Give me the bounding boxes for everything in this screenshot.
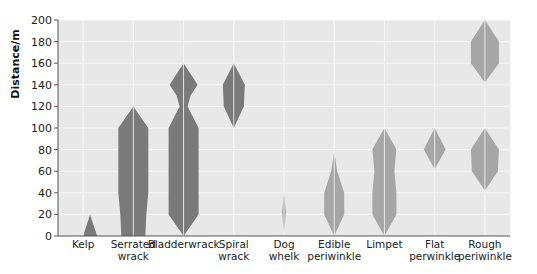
y-tick-label: 160 bbox=[31, 57, 52, 70]
kite-chart: 020406080100120140160180200 KelpSerrated… bbox=[0, 0, 537, 274]
y-tick-label: 120 bbox=[31, 100, 52, 113]
y-axis-ticks: 020406080100120140160180200 bbox=[31, 14, 58, 243]
category-label: Bladderwrack bbox=[148, 238, 221, 250]
category-label: Spiral bbox=[219, 238, 249, 250]
x-axis-labels: KelpSerratedwrackBladderwrackSpiralwrack… bbox=[72, 238, 512, 262]
category-label: Flat bbox=[425, 238, 445, 250]
y-tick-label: 180 bbox=[31, 36, 52, 49]
y-tick-label: 60 bbox=[38, 165, 52, 178]
y-tick-label: 40 bbox=[38, 187, 52, 200]
category-label: wrack bbox=[218, 250, 250, 262]
y-tick-label: 140 bbox=[31, 79, 52, 92]
category-label: Rough bbox=[468, 238, 501, 250]
y-tick-label: 100 bbox=[31, 122, 52, 135]
category-label: Dog bbox=[273, 238, 294, 250]
category-label: Kelp bbox=[72, 238, 95, 250]
y-tick-label: 0 bbox=[45, 230, 52, 243]
category-label: perwinkle bbox=[409, 250, 460, 262]
category-label: Edible bbox=[318, 238, 350, 250]
y-axis-label: Distance/m bbox=[9, 29, 22, 98]
y-tick-label: 20 bbox=[38, 208, 52, 221]
y-tick-label: 80 bbox=[38, 144, 52, 157]
category-label: periwinkle bbox=[307, 250, 361, 262]
y-tick-label: 200 bbox=[31, 14, 52, 27]
category-label: wrack bbox=[118, 250, 150, 262]
category-label: Limpet bbox=[366, 238, 402, 250]
category-label: periwinkle bbox=[458, 250, 512, 262]
category-label: whelk bbox=[269, 250, 301, 262]
